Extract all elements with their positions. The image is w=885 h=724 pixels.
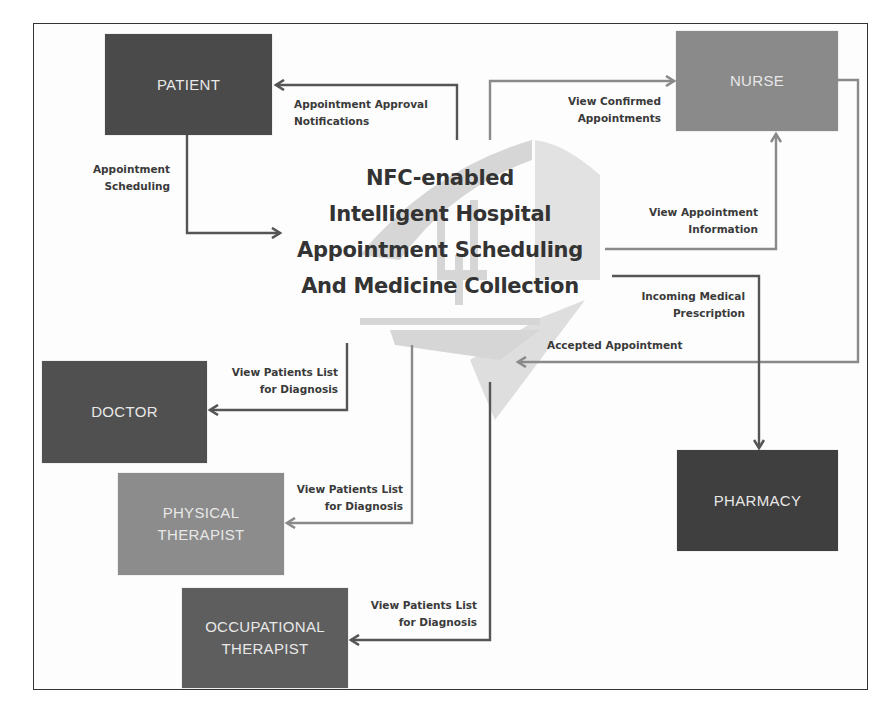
label-line: View Patients List bbox=[275, 481, 403, 498]
prescription-label: Incoming Medical Prescription bbox=[620, 288, 745, 322]
diagram-canvas: NFC-enabled Intelligent Hospital Appoint… bbox=[0, 0, 885, 724]
node-label: PHARMACY bbox=[714, 490, 801, 512]
occupational-therapist-node: OCCUPATIONAL THERAPIST bbox=[182, 588, 348, 688]
patient-node: PATIENT bbox=[105, 34, 272, 135]
label-line: View Appointment bbox=[620, 204, 758, 221]
confirmed-label: View Confirmed Appointments bbox=[520, 93, 661, 127]
label-line: Appointment bbox=[80, 161, 170, 178]
node-label: PATIENT bbox=[157, 74, 220, 96]
scheduling-label: Appointment Scheduling bbox=[80, 161, 170, 195]
pharmacy-node: PHARMACY bbox=[677, 450, 838, 551]
doctor-list-label: View Patients List for Diagnosis bbox=[210, 364, 338, 398]
label-line: Prescription bbox=[620, 305, 745, 322]
node-label: THERAPIST bbox=[158, 524, 245, 546]
label-line: Accepted Appointment bbox=[547, 337, 683, 354]
label-line: Notifications bbox=[294, 113, 428, 130]
title-line: NFC-enabled bbox=[270, 160, 610, 196]
label-line: for Diagnosis bbox=[210, 381, 338, 398]
label-line: Appointment Approval bbox=[294, 96, 428, 113]
label-line: Scheduling bbox=[80, 178, 170, 195]
label-line: for Diagnosis bbox=[275, 498, 403, 515]
label-line: View Patients List bbox=[210, 364, 338, 381]
title-line: Appointment Scheduling bbox=[270, 232, 610, 268]
label-line: Incoming Medical bbox=[620, 288, 745, 305]
label-line: View Confirmed bbox=[520, 93, 661, 110]
doctor-node: DOCTOR bbox=[42, 361, 207, 463]
accepted-label: Accepted Appointment bbox=[547, 337, 683, 354]
label-line: Information bbox=[620, 221, 758, 238]
info-label: View Appointment Information bbox=[620, 204, 758, 238]
title-line: And Medicine Collection bbox=[270, 268, 610, 304]
node-label: DOCTOR bbox=[91, 401, 158, 423]
pt-list-label: View Patients List for Diagnosis bbox=[275, 481, 403, 515]
nurse-node: NURSE bbox=[676, 31, 838, 131]
ot-list-label: View Patients List for Diagnosis bbox=[350, 597, 477, 631]
label-line: for Diagnosis bbox=[350, 614, 477, 631]
label-line: View Patients List bbox=[350, 597, 477, 614]
system-title: NFC-enabled Intelligent Hospital Appoint… bbox=[270, 160, 610, 304]
physical-therapist-node: PHYSICAL THERAPIST bbox=[118, 473, 284, 575]
node-label: PHYSICAL bbox=[158, 502, 245, 524]
title-line: Intelligent Hospital bbox=[270, 196, 610, 232]
node-label: OCCUPATIONAL bbox=[205, 616, 325, 638]
label-line: Appointments bbox=[520, 110, 661, 127]
node-label: NURSE bbox=[730, 70, 784, 92]
scheduling-arrow bbox=[187, 135, 280, 233]
approval-label: Appointment Approval Notifications bbox=[294, 96, 428, 130]
node-label: THERAPIST bbox=[205, 638, 325, 660]
